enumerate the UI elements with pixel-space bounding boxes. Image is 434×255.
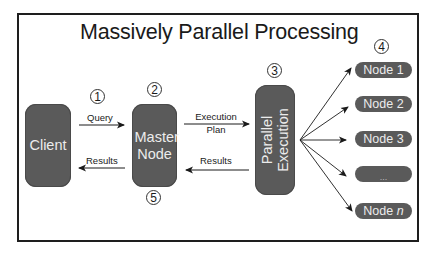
node-n-label: Node <box>363 204 393 218</box>
node-1: Node 1 <box>355 62 412 78</box>
step-2-circle: 2 <box>147 82 162 97</box>
parallel-execution-box: Parallel Execution <box>255 85 295 195</box>
node-ellipsis: ... <box>355 166 412 182</box>
node-1-label: Node 1 <box>363 63 403 77</box>
step-5-circle: 5 <box>146 190 161 205</box>
node-2: Node 2 <box>355 96 412 112</box>
execution-plan-label-line1: Execution <box>190 111 242 122</box>
results-to-master-label: Results <box>200 155 232 166</box>
node-n: Node n <box>355 203 412 219</box>
client-box: Client <box>25 104 71 187</box>
master-node-box: Master Node <box>132 104 177 187</box>
step-3-circle: 3 <box>267 63 282 78</box>
step-4-number: 4 <box>378 41 385 53</box>
node-3-label: Node 3 <box>363 132 403 146</box>
node-n-suffix: n <box>397 204 404 218</box>
query-label: Query <box>87 112 113 123</box>
client-label: Client <box>29 137 66 154</box>
step-1-number: 1 <box>94 91 101 103</box>
step-5-number: 5 <box>150 192 157 204</box>
parallel-execution-label-text: Parallel Execution <box>259 96 291 184</box>
node-2-label: Node 2 <box>363 97 403 111</box>
step-3-number: 3 <box>271 65 278 77</box>
step-4-circle: 4 <box>374 39 389 54</box>
master-node-label: Master Node <box>135 129 175 163</box>
step-2-number: 2 <box>151 84 158 96</box>
execution-plan-label-line2: Plan <box>190 124 242 135</box>
node-ellipsis-label: ... <box>380 172 388 182</box>
node-3: Node 3 <box>355 131 412 147</box>
parallel-execution-label: Parallel Execution <box>259 96 291 184</box>
results-to-client-label: Results <box>86 155 118 166</box>
diagram-title: Massively Parallel Processing <box>80 20 354 45</box>
step-1-circle: 1 <box>90 89 105 104</box>
